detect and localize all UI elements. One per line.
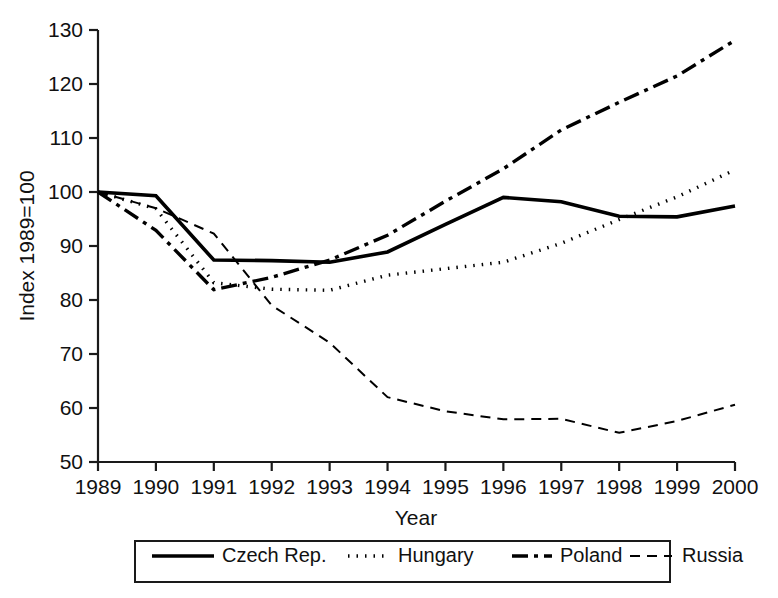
- x-tick-label: 1998: [596, 475, 643, 498]
- x-tick-label: 1989: [75, 475, 122, 498]
- x-tick-label: 1994: [364, 475, 411, 498]
- x-tick-label: 1995: [422, 475, 469, 498]
- legend: Czech Rep.HungaryPolandRussia: [152, 544, 744, 566]
- y-tick-label: 120: [48, 72, 83, 95]
- x-tick-label: 1990: [133, 475, 180, 498]
- y-tick-label: 50: [60, 450, 83, 473]
- series-line-hungary: [98, 170, 735, 290]
- y-tick-label: 80: [60, 288, 83, 311]
- y-tick-label: 130: [48, 18, 83, 41]
- chart-container: 5060708090100110120130 19891990199119921…: [0, 0, 778, 598]
- x-tick-label: 1997: [538, 475, 585, 498]
- series-line-russia: [98, 192, 735, 433]
- x-axis-tick-labels: 1989199019911992199319941995199619971998…: [75, 475, 759, 498]
- x-tick-label: 1993: [306, 475, 353, 498]
- y-axis-ticks: [89, 30, 98, 462]
- x-tick-label: 2000: [712, 475, 759, 498]
- x-tick-label: 1992: [248, 475, 295, 498]
- legend-label-hungary: Hungary: [398, 544, 474, 566]
- x-tick-label: 1999: [654, 475, 701, 498]
- y-axis-title: Index 1989=100: [15, 170, 38, 321]
- line-chart: 5060708090100110120130 19891990199119921…: [0, 0, 778, 598]
- y-tick-label: 110: [50, 126, 83, 149]
- y-tick-label: 70: [60, 342, 83, 365]
- x-axis-title: Year: [395, 506, 437, 529]
- y-tick-label: 90: [60, 234, 83, 257]
- y-tick-label: 100: [48, 180, 83, 203]
- series-lines: [98, 40, 735, 433]
- y-axis-tick-labels: 5060708090100110120130: [48, 18, 83, 473]
- legend-label-russia: Russia: [682, 544, 744, 566]
- y-tick-label: 60: [60, 396, 83, 419]
- legend-label-czech-rep: Czech Rep.: [222, 544, 327, 566]
- x-axis-ticks: [98, 462, 735, 471]
- x-tick-label: 1996: [480, 475, 527, 498]
- x-tick-label: 1991: [190, 475, 237, 498]
- series-line-czech-rep: [98, 192, 735, 262]
- legend-label-poland: Poland: [560, 544, 622, 566]
- series-line-poland: [98, 40, 735, 289]
